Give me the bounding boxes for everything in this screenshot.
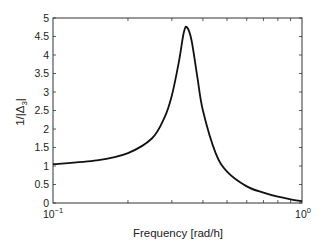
data-line <box>53 27 302 201</box>
y-tick-label: 1.5 <box>34 141 49 153</box>
y-tick-label: 1 <box>43 160 49 172</box>
y-tick-label: 4 <box>43 49 49 61</box>
chart: 00.511.522.533.544.55 10−1 100 Frequency… <box>0 0 329 250</box>
y-tick-label: 0.5 <box>34 178 49 190</box>
y-tick-label: 3 <box>43 86 49 98</box>
x-axis-ticks <box>128 18 291 203</box>
y-tick-label: 2 <box>43 123 49 135</box>
x-tick-left: 10−1 <box>43 206 63 220</box>
x-axis-label: Frequency [rad/h] <box>133 227 223 239</box>
y-axis-label: 1/|Δ3| <box>14 98 29 126</box>
plot-frame <box>53 18 302 203</box>
y-tick-label: 5 <box>43 12 49 24</box>
y-tick-label: 2.5 <box>34 104 49 116</box>
y-tick-label: 0 <box>43 197 49 209</box>
x-tick-right: 100 <box>295 206 311 220</box>
y-tick-label: 3.5 <box>34 67 49 79</box>
y-tick-label: 4.5 <box>34 30 49 42</box>
